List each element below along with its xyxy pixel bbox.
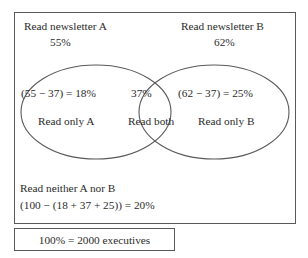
total-legend-text: 100% = 2000 executives [39,234,150,246]
set-a-percent: 55% [50,37,71,49]
neither-region-label: Read neither A nor B [20,183,115,195]
intersection-value: 37% [131,88,152,100]
set-b-title: Read newsletter B [181,21,264,33]
venn-diagram: Read newsletter A 55% Read newsletter B … [0,0,308,258]
set-b-only-calculation: (62 − 37) = 25% [178,88,253,100]
neither-region-calculation: (100 − (18 + 37 + 25)) = 20% [20,200,155,212]
set-b-only-label: Read only B [198,116,254,128]
set-b-percent: 62% [214,37,235,49]
set-a-only-calculation: (55 − 37) = 18% [21,88,96,100]
intersection-label: Read both [128,116,174,128]
set-a-only-label: Read only A [38,116,94,128]
set-a-title: Read newsletter A [24,21,107,33]
total-legend-box: 100% = 2000 executives [14,228,175,251]
